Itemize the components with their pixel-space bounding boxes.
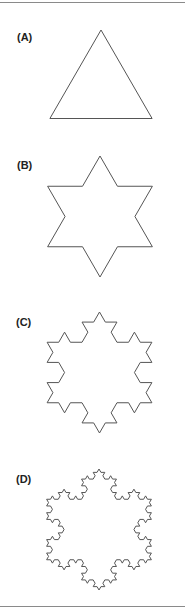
triangle-iteration-0	[50, 30, 152, 119]
koch-figure	[0, 0, 185, 613]
koch-snowflake-iteration-2	[47, 312, 152, 433]
bottom-border-rule	[0, 606, 185, 607]
koch-star-iteration-1	[48, 156, 153, 277]
koch-snowflake-iteration-3	[47, 469, 152, 590]
